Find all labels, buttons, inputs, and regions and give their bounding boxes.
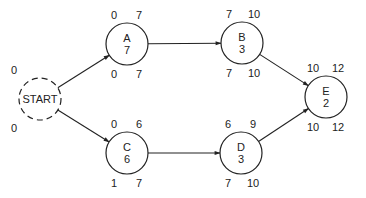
- node-b: B3710710: [221, 8, 263, 79]
- node-duration: 3: [238, 153, 244, 165]
- node-duration: 3: [239, 43, 245, 55]
- latest-finish-label: 12: [332, 121, 344, 133]
- node-name: E: [322, 85, 329, 97]
- latest-start-label: 0: [111, 68, 117, 80]
- node-start: START00: [11, 64, 61, 134]
- edge-start-to-a: [58, 55, 109, 88]
- earliest-start-label: 0: [111, 9, 117, 21]
- earliest-finish-label: 10: [248, 8, 260, 20]
- edge-start-to-c: [58, 110, 109, 142]
- node-name: B: [238, 31, 245, 43]
- node-c: C60617: [106, 118, 148, 189]
- node-name: START: [22, 93, 57, 105]
- latest-finish-label: 10: [247, 177, 259, 189]
- node-duration: 7: [124, 44, 130, 56]
- latest-start-label: 10: [307, 121, 319, 133]
- edges: [58, 43, 309, 153]
- edge-b-to-e: [260, 54, 309, 85]
- node-e: E210121012: [305, 62, 347, 133]
- earliest-finish-label: 6: [136, 118, 142, 130]
- latest-finish-label: 7: [136, 177, 142, 189]
- latest-finish-label: 0: [11, 122, 17, 134]
- edge-d-to-e: [259, 109, 309, 142]
- earliest-start-label: 0: [11, 64, 17, 76]
- node-name: D: [237, 141, 245, 153]
- earliest-finish-label: 9: [250, 118, 256, 130]
- latest-start-label: 1: [111, 177, 117, 189]
- earliest-start-label: 10: [307, 62, 319, 74]
- network-diagram: START00A70707B3710710C60617D369710E21012…: [0, 0, 366, 198]
- earliest-finish-label: 7: [136, 9, 142, 21]
- node-name: A: [123, 32, 131, 44]
- latest-start-label: 7: [226, 67, 232, 79]
- node-a: A70707: [106, 9, 148, 80]
- earliest-finish-label: 12: [332, 62, 344, 74]
- edge-a-to-b: [148, 43, 221, 44]
- node-name: C: [123, 141, 131, 153]
- nodes: START00A70707B3710710C60617D369710E21012…: [11, 8, 347, 189]
- earliest-start-label: 0: [111, 118, 117, 130]
- node-duration: 6: [124, 153, 130, 165]
- node-duration: 2: [323, 97, 329, 109]
- latest-finish-label: 7: [136, 68, 142, 80]
- node-d: D369710: [220, 118, 262, 189]
- earliest-start-label: 7: [226, 8, 232, 20]
- latest-start-label: 7: [225, 177, 231, 189]
- latest-finish-label: 10: [248, 67, 260, 79]
- earliest-start-label: 6: [225, 118, 231, 130]
